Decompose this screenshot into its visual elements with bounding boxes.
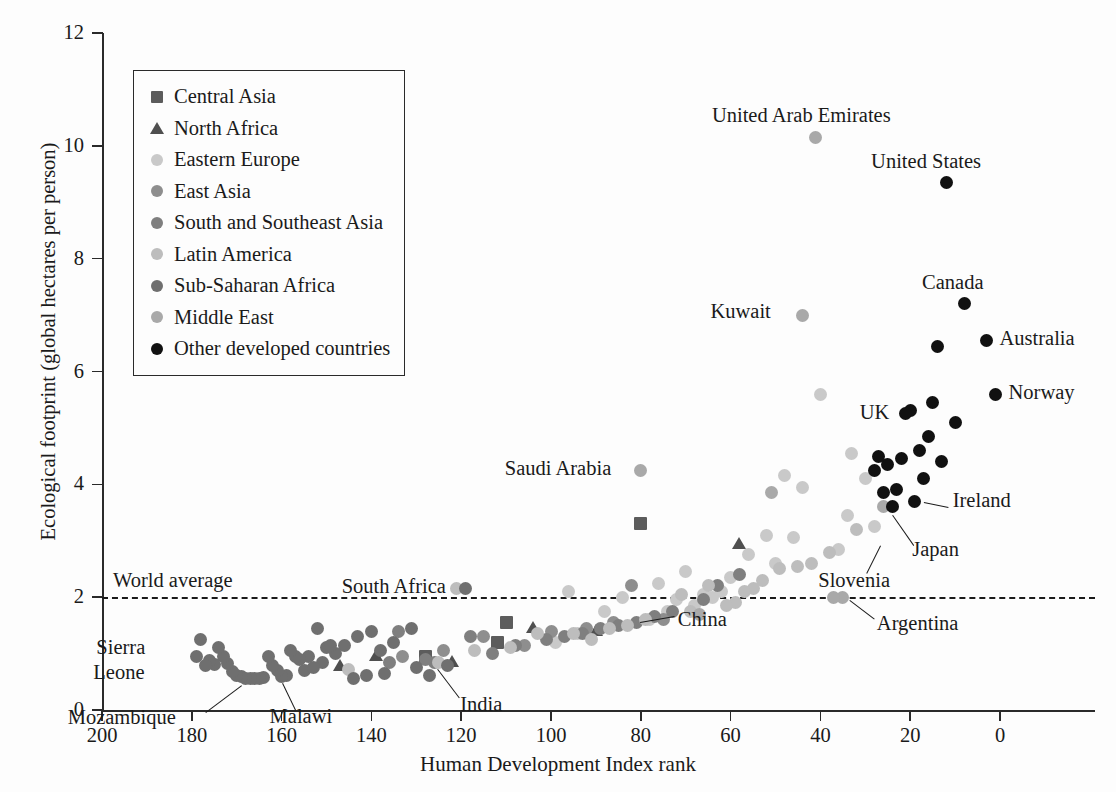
legend-item[interactable]: Latin America	[144, 239, 390, 271]
circle-marker-icon	[144, 185, 170, 197]
y-tick	[92, 32, 103, 34]
data-point	[603, 622, 616, 635]
data-point	[886, 500, 899, 513]
annotation-leader-line	[923, 502, 948, 508]
data-point	[396, 650, 409, 663]
data-point	[634, 464, 647, 477]
legend-item[interactable]: Eastern Europe	[144, 144, 390, 176]
data-point	[940, 176, 953, 189]
legend-item[interactable]: Other developed countries	[144, 333, 390, 365]
data-point	[441, 659, 454, 672]
data-point	[989, 388, 1002, 401]
annotation-argentina: Argentina	[877, 613, 959, 634]
x-tick-label: 40	[785, 724, 855, 746]
chart-figure: 024681012 200180160140120100806040200 Ec…	[0, 0, 1116, 792]
annotation-norway: Norway	[1009, 382, 1075, 403]
data-point	[827, 591, 840, 604]
legend-item[interactable]: North Africa	[144, 113, 390, 145]
circle-marker-icon	[144, 280, 170, 292]
data-point	[732, 537, 746, 549]
data-point	[190, 650, 203, 663]
data-point	[899, 407, 912, 420]
annotation-slovenia: Slovenia	[818, 570, 890, 591]
annotation-canada: Canada	[922, 272, 983, 293]
data-point	[895, 452, 908, 465]
y-tick	[92, 258, 103, 260]
data-point	[738, 585, 751, 598]
world-average-label: World average	[113, 569, 233, 592]
data-point	[585, 633, 598, 646]
annotation-leader-line	[205, 685, 242, 713]
data-point	[697, 593, 710, 606]
y-tick	[92, 484, 103, 486]
data-point	[374, 644, 387, 657]
data-point	[926, 396, 939, 409]
legend-item[interactable]: East Asia	[144, 176, 390, 208]
annotation-ireland: Ireland	[953, 490, 1011, 511]
data-point	[634, 517, 647, 530]
data-point	[477, 630, 490, 643]
data-point	[459, 582, 472, 595]
data-point	[504, 641, 517, 654]
data-point	[307, 661, 320, 674]
data-point	[913, 444, 926, 457]
data-point	[351, 630, 364, 643]
y-tick	[92, 145, 103, 147]
data-point	[773, 562, 786, 575]
legend-label: Latin America	[170, 244, 292, 265]
data-point	[765, 486, 778, 499]
legend-item[interactable]: Middle East	[144, 302, 390, 334]
x-tick	[820, 710, 822, 721]
data-point	[877, 486, 890, 499]
annotation-australia: Australia	[1000, 328, 1075, 349]
data-point	[733, 568, 746, 581]
x-tick	[999, 710, 1001, 721]
legend-item[interactable]: Central Asia	[144, 81, 390, 113]
data-point	[347, 672, 360, 685]
data-point	[500, 616, 513, 629]
data-point	[760, 529, 773, 542]
data-point	[814, 388, 827, 401]
data-point	[621, 619, 634, 632]
circle-marker-icon	[144, 154, 170, 166]
triangle-marker-icon	[144, 122, 170, 134]
annotation-malawi: Malawi	[270, 706, 333, 727]
annotation-china: China	[678, 609, 727, 630]
data-point	[872, 450, 885, 463]
annotation-southafrica: South Africa	[342, 576, 446, 597]
data-point	[675, 588, 688, 601]
data-point	[908, 495, 921, 508]
data-point	[410, 661, 423, 674]
data-point	[850, 523, 863, 536]
data-point	[742, 548, 755, 561]
data-point	[194, 633, 207, 646]
circle-marker-icon	[144, 311, 170, 323]
data-point	[958, 297, 971, 310]
annotation-mozambique: Mozambique	[68, 707, 176, 728]
legend-label: Eastern Europe	[170, 149, 300, 170]
annotation-sierra-leone-2: Leone	[93, 662, 144, 683]
legend[interactable]: Central AsiaNorth AfricaEastern EuropeEa…	[133, 70, 405, 376]
x-tick	[909, 710, 911, 721]
data-point	[405, 622, 418, 635]
data-point	[935, 455, 948, 468]
data-point	[845, 447, 858, 460]
legend-item[interactable]: Sub-Saharan Africa	[144, 270, 390, 302]
data-point	[796, 481, 809, 494]
legend-item[interactable]: South and Southeast Asia	[144, 207, 390, 239]
data-point	[311, 622, 324, 635]
data-point	[805, 557, 818, 570]
x-axis-line	[102, 710, 1095, 712]
legend-label: North Africa	[170, 118, 278, 139]
data-point	[868, 520, 881, 533]
data-point	[791, 560, 804, 573]
annotation-india: India	[460, 694, 502, 715]
data-point	[387, 636, 400, 649]
annotation-usa: United States	[871, 151, 981, 172]
data-point	[562, 585, 575, 598]
data-point	[841, 509, 854, 522]
world-average-line	[102, 597, 1095, 599]
annotation-saudi: Saudi Arabia	[505, 458, 611, 479]
data-point	[625, 579, 638, 592]
x-tick-label: 100	[516, 724, 586, 746]
